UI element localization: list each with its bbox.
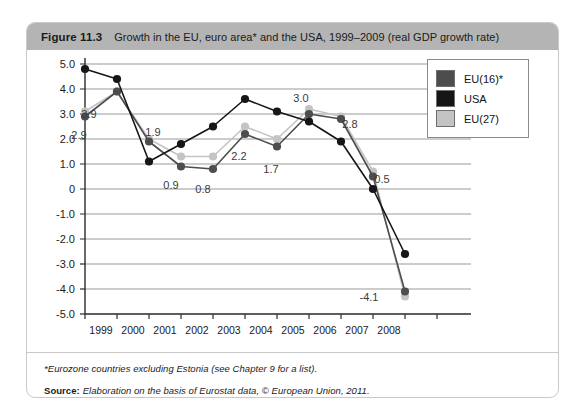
axes bbox=[85, 58, 471, 314]
data-point-label: 2.9 bbox=[71, 129, 86, 141]
data-point-label: 0.9 bbox=[163, 179, 178, 191]
legend-item-eu16: EU(16)* bbox=[436, 70, 520, 87]
source-label: Source: bbox=[44, 385, 80, 396]
legend-label-eu27: EU(27) bbox=[464, 113, 499, 125]
data-point-label: 3.0 bbox=[293, 92, 308, 104]
figure-title: Growth in the EU, euro area* and the USA… bbox=[114, 31, 499, 43]
figure-source: Source:Elaboration on the basis of Euros… bbox=[44, 385, 370, 396]
legend-item-usa: USA bbox=[436, 90, 520, 107]
figure-number: Figure 11.3 bbox=[41, 31, 102, 43]
data-point-label: 1.9 bbox=[145, 126, 160, 138]
data-point-labels: 2.93.91.90.90.82.21.73.02.80.5-4.1 bbox=[71, 92, 389, 303]
x-tick-label: 1999 bbox=[89, 324, 113, 336]
legend-swatch-eu27 bbox=[436, 110, 455, 127]
grid-lines bbox=[85, 64, 471, 289]
data-series-group bbox=[81, 65, 409, 301]
x-tick-label: 2001 bbox=[153, 324, 177, 336]
data-point-label: 0.5 bbox=[374, 173, 389, 185]
data-point-label: 1.7 bbox=[263, 163, 278, 175]
y-tick-label: 0 bbox=[69, 183, 75, 195]
y-tick-label: 5.0 bbox=[60, 58, 75, 70]
x-axis-tick-labels: 1999200020012002200320042005200620072008 bbox=[89, 324, 401, 336]
figure-footnote: *Eurozone countries excluding Estonia (s… bbox=[44, 363, 317, 374]
x-tick-label: 2006 bbox=[313, 324, 337, 336]
y-tick-label: -4.0 bbox=[56, 283, 75, 295]
y-axis-ticks bbox=[80, 64, 85, 314]
y-axis-tick-labels: 5.04.03.02.01.00-1.0-2.0-3.0-4.0-5.0 bbox=[56, 58, 75, 320]
y-tick-label: 3.0 bbox=[60, 108, 75, 120]
legend-label-eu16: EU(16)* bbox=[464, 73, 503, 85]
x-tick-label: 2000 bbox=[121, 324, 145, 336]
x-axis-ticks bbox=[85, 314, 437, 319]
x-tick-label: 2005 bbox=[281, 324, 305, 336]
x-tick-label: 2002 bbox=[185, 324, 209, 336]
data-point-label: 2.8 bbox=[342, 118, 357, 130]
x-tick-label: 2008 bbox=[377, 324, 401, 336]
legend-label-usa: USA bbox=[464, 93, 487, 105]
footer-divider bbox=[27, 352, 559, 353]
data-point-label: 2.2 bbox=[231, 150, 246, 162]
series-eu27 bbox=[81, 87, 409, 300]
figure-title-bar: Figure 11.3 Growth in the EU, euro area*… bbox=[27, 23, 558, 50]
source-text: Elaboration on the basis of Eurostat dat… bbox=[83, 385, 370, 396]
data-point-label: -4.1 bbox=[360, 291, 379, 303]
y-tick-label: -2.0 bbox=[56, 233, 75, 245]
y-tick-label: 4.0 bbox=[60, 83, 75, 95]
chart-legend: EU(16)* USA EU(27) bbox=[427, 59, 529, 138]
x-tick-label: 2003 bbox=[217, 324, 241, 336]
legend-item-eu27: EU(27) bbox=[436, 110, 520, 127]
y-tick-label: 1.0 bbox=[60, 158, 75, 170]
figure-panel: Figure 11.3 Growth in the EU, euro area*… bbox=[26, 22, 559, 398]
x-tick-label: 2007 bbox=[345, 324, 369, 336]
y-tick-label: -5.0 bbox=[56, 308, 75, 320]
y-tick-label: -1.0 bbox=[56, 208, 75, 220]
legend-swatch-usa bbox=[436, 90, 455, 107]
data-point-label: 3.9 bbox=[81, 108, 96, 120]
y-tick-label: -3.0 bbox=[56, 258, 75, 270]
data-point-label: 0.8 bbox=[195, 183, 210, 195]
x-tick-label: 2004 bbox=[249, 324, 273, 336]
legend-swatch-eu16 bbox=[436, 70, 455, 87]
